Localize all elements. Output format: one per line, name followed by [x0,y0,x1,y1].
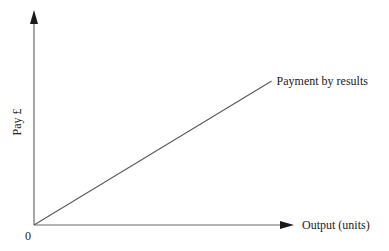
series-layer: Payment by results [34,74,368,225]
x-axis-label: Output (units) [302,218,370,232]
x-axis-arrow-icon [280,221,294,229]
series-line-0 [34,81,272,225]
series-label-0: Payment by results [277,74,369,88]
chart: Pay £ Output (units) 0 Payment by result… [0,0,389,251]
y-axis-label: Pay £ [10,109,24,136]
origin-label: 0 [25,229,31,243]
axes [30,10,294,229]
y-axis-arrow-icon [30,10,38,24]
